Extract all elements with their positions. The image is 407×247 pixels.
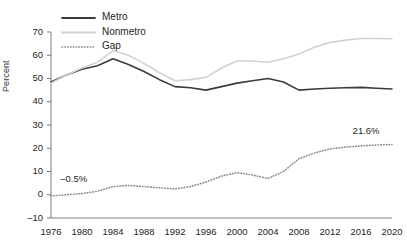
series-line-gap <box>51 145 392 196</box>
legend-label-gap: Gap <box>102 40 121 51</box>
y-axis-tick-label: 40 <box>21 95 43 106</box>
series-line-metro <box>51 59 392 90</box>
x-axis-tick-label: 2000 <box>220 226 254 237</box>
y-axis-tick-label: 70 <box>21 26 43 37</box>
x-axis-tick-label: 2012 <box>313 226 347 237</box>
y-axis-tick-label: –10 <box>21 212 43 223</box>
x-axis-tick-label: 2004 <box>251 226 285 237</box>
data-annotation: 21.6% <box>353 125 380 136</box>
y-axis-tick-label: 20 <box>21 142 43 153</box>
x-axis-tick-label: 1988 <box>127 226 161 237</box>
x-axis-tick-label: 2008 <box>282 226 316 237</box>
x-axis-tick-label: 1980 <box>65 226 99 237</box>
y-axis-title: Percent <box>1 60 11 92</box>
x-axis-tick-label: 1984 <box>96 226 130 237</box>
y-axis-tick-label: 60 <box>21 49 43 60</box>
x-axis-tick-label: 1992 <box>158 226 192 237</box>
x-axis-tick-label: 1976 <box>34 226 68 237</box>
y-axis-tick-label: 50 <box>21 72 43 83</box>
data-annotation: –0.5% <box>60 173 87 184</box>
x-axis-tick-label: 2016 <box>344 226 378 237</box>
y-axis-tick-label: 30 <box>21 119 43 130</box>
y-axis-tick-label: 10 <box>21 165 43 176</box>
legend-label-nonmetro: Nonmetro <box>102 26 146 37</box>
y-axis-tick-label: 0 <box>21 188 43 199</box>
x-axis-tick-label: 2020 <box>375 226 407 237</box>
x-axis-tick-label: 1996 <box>189 226 223 237</box>
legend-label-metro: Metro <box>102 11 128 22</box>
